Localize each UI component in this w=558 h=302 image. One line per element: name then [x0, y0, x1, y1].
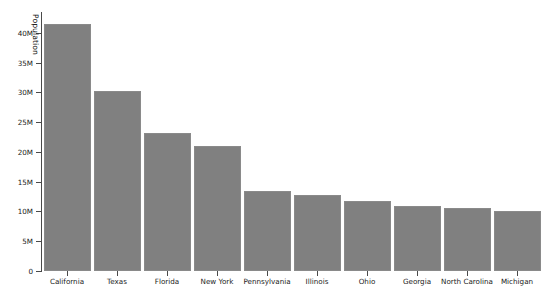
x-axis-tick-label: Michigan	[501, 277, 533, 286]
bar-california[interactable]	[44, 24, 91, 271]
x-axis-tick-label: Florida	[155, 277, 179, 286]
x-axis-tick	[217, 271, 218, 276]
x-axis-tick	[417, 271, 418, 276]
bar-rect	[194, 146, 241, 271]
x-axis-tick	[367, 271, 368, 276]
bar-georgia[interactable]	[394, 206, 441, 271]
y-axis-tick-label: 15M	[18, 177, 33, 186]
bar-texas[interactable]	[94, 91, 141, 271]
bar-rect	[394, 206, 441, 271]
x-axis-tick	[517, 271, 518, 276]
bar-new-york[interactable]	[194, 146, 241, 271]
x-axis-tick	[467, 271, 468, 276]
x-axis-tick-label: North Carolina	[441, 277, 493, 286]
x-axis-tick	[317, 271, 318, 276]
y-axis-tick-label: 35M	[18, 58, 33, 67]
bar-michigan[interactable]	[494, 211, 541, 271]
y-axis-tick-label: 0	[28, 267, 33, 276]
x-axis-tick-label: Georgia	[403, 277, 431, 286]
bar-florida[interactable]	[144, 133, 191, 271]
y-axis-title: Population	[31, 14, 40, 55]
x-axis-tick	[117, 271, 118, 276]
x-axis-tick	[67, 271, 68, 276]
y-axis-tick-label: 10M	[18, 207, 33, 216]
x-axis: CaliforniaTexasFloridaNew YorkPennsylvan…	[42, 271, 542, 302]
x-axis-tick	[167, 271, 168, 276]
y-axis-tick	[36, 122, 41, 123]
y-axis-tick-label: 5M	[22, 237, 33, 246]
y-axis-tick-label: 20M	[18, 147, 33, 156]
bar-north-carolina[interactable]	[444, 208, 491, 271]
x-axis-tick-label: Pennsylvania	[243, 277, 290, 286]
bar-pennsylvania[interactable]	[244, 191, 291, 271]
x-axis-tick-label: New York	[201, 277, 234, 286]
bar-illinois[interactable]	[294, 195, 341, 271]
bar-rect	[244, 191, 291, 271]
bar-rect	[444, 208, 491, 271]
y-axis-tick	[36, 63, 41, 64]
bar-chart-figure: 05M10M15M20M25M30M35M40M Population Cali…	[0, 0, 558, 302]
y-axis-tick	[36, 211, 41, 212]
bar-rect	[344, 201, 391, 271]
y-axis-tick	[36, 241, 41, 242]
y-axis-tick	[36, 182, 41, 183]
bar-rect	[294, 195, 341, 271]
plot-area	[42, 12, 542, 271]
y-axis-tick-label: 25M	[18, 118, 33, 127]
bar-rect	[494, 211, 541, 271]
x-axis-tick	[267, 271, 268, 276]
y-axis-tick	[36, 271, 41, 272]
y-axis-tick	[36, 92, 41, 93]
bar-rect	[144, 133, 191, 271]
bar-rect	[94, 91, 141, 271]
x-axis-tick-label: Texas	[107, 277, 127, 286]
bar-rect	[44, 24, 91, 271]
y-axis-tick	[36, 152, 41, 153]
y-axis-tick-label: 30M	[18, 88, 33, 97]
x-axis-tick-label: California	[50, 277, 84, 286]
x-axis-tick-label: Illinois	[306, 277, 329, 286]
bar-ohio[interactable]	[344, 201, 391, 271]
x-axis-tick-label: Ohio	[359, 277, 376, 286]
